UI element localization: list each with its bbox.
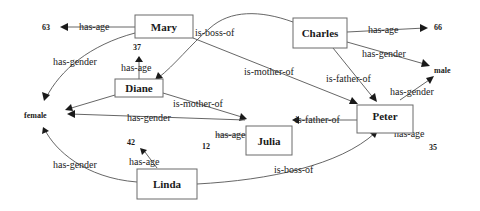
arrowhead-icon bbox=[426, 76, 434, 84]
literal-37: 37 bbox=[133, 43, 141, 52]
node-julia[interactable]: Julia bbox=[246, 126, 292, 155]
edge-label: has-gender bbox=[53, 56, 98, 67]
edge-label: has-age bbox=[368, 24, 399, 35]
edge-label: is-father-of bbox=[326, 73, 371, 84]
edge-label: has-age bbox=[79, 21, 110, 32]
edge-diane-has-gender bbox=[65, 95, 115, 111]
edge-label: is-father-of bbox=[295, 114, 340, 125]
literal-66: 66 bbox=[434, 23, 442, 32]
edge-julia-has-gender: has-gender bbox=[67, 110, 245, 123]
literal-42: 42 bbox=[127, 138, 135, 147]
svg-text:37: 37 bbox=[133, 43, 141, 52]
node-label: Charles bbox=[302, 27, 339, 39]
edge-label: has-gender bbox=[390, 86, 435, 97]
edge-peter-is-father-of: is-father-of bbox=[292, 114, 357, 125]
arrowhead-icon bbox=[420, 24, 428, 32]
edge-diane-is-mother-of: is-mother-of bbox=[163, 93, 247, 121]
edge-label: has-gender bbox=[362, 48, 407, 59]
svg-text:42: 42 bbox=[127, 138, 135, 147]
node-label: Diane bbox=[125, 82, 153, 94]
literal-12: 12 bbox=[202, 142, 210, 151]
node-label: Peter bbox=[372, 110, 397, 122]
arrowhead-icon bbox=[42, 127, 49, 134]
node-charles[interactable]: Charles bbox=[293, 18, 347, 48]
literal-63: 63 bbox=[42, 23, 50, 32]
svg-text:female: female bbox=[24, 111, 47, 120]
svg-text:male: male bbox=[434, 66, 451, 75]
node-peter[interactable]: Peter bbox=[357, 105, 413, 133]
edge-linda-has-gender: has-gender bbox=[42, 127, 137, 182]
arrowhead-icon bbox=[421, 59, 430, 67]
edge-linda-has-age: has-age bbox=[129, 148, 160, 168]
edge-charles-has-gender: has-gender bbox=[347, 42, 430, 67]
knowledge-graph-diagram: has-age has-gender is-boss-of is-mother-… bbox=[0, 0, 480, 211]
edge-label: has-gender bbox=[53, 159, 98, 170]
edge-label: is-mother-of bbox=[173, 98, 223, 109]
node-label: Linda bbox=[153, 178, 182, 190]
edge-label: is-boss-of bbox=[274, 164, 314, 175]
node-linda[interactable]: Linda bbox=[137, 169, 197, 199]
edge-mary-has-age: has-age bbox=[60, 21, 135, 32]
node-label: Julia bbox=[257, 135, 281, 147]
svg-text:66: 66 bbox=[434, 23, 442, 32]
literal-35: 35 bbox=[429, 143, 437, 152]
node-label: Mary bbox=[151, 21, 178, 33]
literal-male: male bbox=[434, 66, 451, 75]
edge-label: has-gender bbox=[127, 112, 172, 123]
edge-label: is-mother-of bbox=[244, 66, 294, 77]
node-mary[interactable]: Mary bbox=[135, 15, 193, 38]
node-diane[interactable]: Diane bbox=[115, 79, 163, 97]
arrowhead-icon bbox=[65, 104, 73, 111]
edge-label: has-age bbox=[129, 156, 160, 167]
svg-text:12: 12 bbox=[202, 142, 210, 151]
literal-female: female bbox=[24, 111, 47, 120]
edge-label: is-boss-of bbox=[195, 27, 235, 38]
svg-text:63: 63 bbox=[42, 23, 50, 32]
edge-charles-has-age: has-age bbox=[347, 24, 428, 35]
edge-label: has-age bbox=[121, 62, 152, 73]
arrowhead-icon bbox=[60, 23, 68, 31]
edge-label: has-age bbox=[215, 129, 246, 140]
arrowhead-icon bbox=[67, 110, 75, 118]
edge-peter-has-gender: has-gender bbox=[390, 76, 435, 100]
edge-diane-has-age: has-age bbox=[121, 56, 152, 79]
svg-text:35: 35 bbox=[429, 143, 437, 152]
